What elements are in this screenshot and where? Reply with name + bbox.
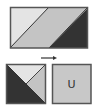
top-rectangle-group: [10, 7, 88, 48]
bottom-right-label: U: [52, 64, 91, 104]
arrow-right-icon: [41, 56, 57, 60]
bottom-left-square: [6, 64, 46, 104]
